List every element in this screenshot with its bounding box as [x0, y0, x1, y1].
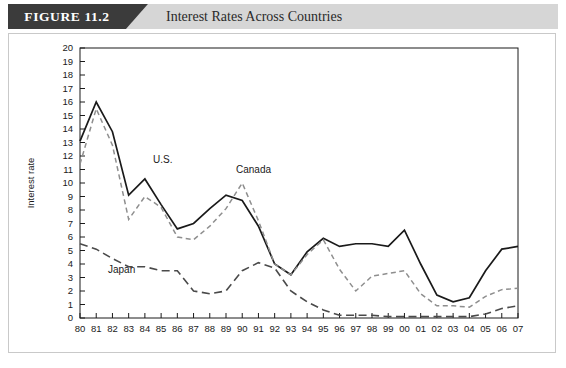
- y-tick-label: 4: [68, 258, 73, 269]
- y-tick-label: 10: [62, 177, 73, 188]
- plot-border: [80, 48, 518, 318]
- x-tick-label: 95: [318, 323, 329, 334]
- y-tick-label: 13: [62, 137, 73, 148]
- y-tick-label: 17: [62, 83, 73, 94]
- x-tick-label: 06: [496, 323, 507, 334]
- y-tick-label: 5: [68, 245, 73, 256]
- x-tick-label: 97: [350, 323, 361, 334]
- y-tick-label: 19: [62, 56, 73, 67]
- y-tick-label: 7: [68, 218, 73, 229]
- y-tick-label: 2: [68, 285, 73, 296]
- y-tick-label: 3: [68, 272, 73, 283]
- y-tick-label: 14: [62, 123, 73, 134]
- y-tick-label: 0: [68, 312, 73, 323]
- x-tick-label: 00: [399, 323, 410, 334]
- series-annotation-canada: Canada: [236, 164, 271, 175]
- x-tick-label: 84: [140, 323, 151, 334]
- y-tick-label: 11: [63, 164, 73, 175]
- x-tick-label: 07: [513, 323, 524, 334]
- series-line-canada: [80, 102, 518, 302]
- x-tick-label: 04: [464, 323, 475, 334]
- y-tick-label: 12: [62, 150, 73, 161]
- figure-container: FIGURE 11.2 Interest Rates Across Countr…: [0, 0, 566, 368]
- x-tick-label: 96: [334, 323, 345, 334]
- x-tick-label: 87: [188, 323, 199, 334]
- x-tick-label: 05: [480, 323, 491, 334]
- x-tick-label: 88: [204, 323, 215, 334]
- x-tick-label: 86: [172, 323, 183, 334]
- x-tick-label: 98: [367, 323, 378, 334]
- x-tick-label: 81: [91, 323, 102, 334]
- y-tick-label: 20: [62, 42, 73, 53]
- y-axis-title: Interest rate: [25, 158, 36, 209]
- x-tick-label: 85: [156, 323, 167, 334]
- y-tick-label: 18: [62, 69, 73, 80]
- y-tick-label: 8: [68, 204, 73, 215]
- chart-plot: 0123456789101112131415161718192080818283…: [8, 33, 556, 353]
- y-tick-label: 6: [68, 231, 73, 242]
- x-tick-label: 01: [415, 323, 426, 334]
- x-tick-label: 89: [221, 323, 232, 334]
- x-tick-label: 94: [302, 323, 313, 334]
- x-tick-label: 99: [383, 323, 394, 334]
- series-annotation-japan: Japan: [108, 264, 135, 275]
- x-tick-label: 92: [269, 323, 280, 334]
- y-tick-label: 15: [62, 110, 73, 121]
- x-tick-label: 93: [286, 323, 297, 334]
- series-line-us: [80, 109, 518, 307]
- x-tick-label: 82: [107, 323, 118, 334]
- x-tick-label: 80: [75, 323, 86, 334]
- x-tick-label: 83: [123, 323, 134, 334]
- x-tick-label: 03: [448, 323, 459, 334]
- figure-header: FIGURE 11.2 Interest Rates Across Countr…: [8, 4, 558, 29]
- x-tick-label: 90: [237, 323, 248, 334]
- figure-title: Interest Rates Across Countries: [166, 4, 342, 29]
- y-tick-label: 1: [68, 299, 73, 310]
- x-axis-title: Year: [289, 351, 308, 353]
- x-tick-label: 02: [432, 323, 443, 334]
- x-tick-label: 91: [253, 323, 264, 334]
- figure-tag-label: FIGURE 11.2: [8, 4, 126, 29]
- series-annotation-us: U.S.: [153, 154, 172, 165]
- y-tick-label: 9: [68, 191, 73, 202]
- y-tick-label: 16: [62, 96, 73, 107]
